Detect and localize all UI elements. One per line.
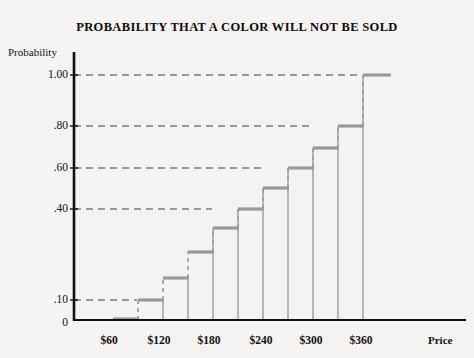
step-plateaus (113, 75, 391, 319)
chart-page: PROBABILITY THAT A COLOR WILL NOT BE SOL… (0, 0, 474, 358)
step-droplines (163, 75, 363, 320)
gridlines (74, 75, 359, 300)
plot-area: Probability 1.00 .80 .60 .40 .10 0 $60 $… (0, 0, 474, 358)
step-risers-dashed (138, 75, 363, 320)
chart-svg (0, 0, 474, 358)
